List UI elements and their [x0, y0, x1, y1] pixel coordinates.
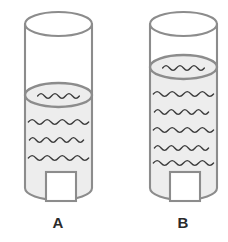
diagram-container: AB [0, 0, 228, 242]
water-surface-B [150, 55, 217, 79]
caption-A: A [53, 214, 64, 231]
water-level-diagram: AB [0, 0, 228, 242]
water-surface-A [25, 83, 92, 107]
label-patch-B [170, 172, 200, 201]
caption-B: B [178, 214, 189, 231]
cylinder-B: B [150, 12, 217, 231]
label-patch-A [46, 172, 76, 201]
cylinder-A: A [25, 12, 92, 231]
